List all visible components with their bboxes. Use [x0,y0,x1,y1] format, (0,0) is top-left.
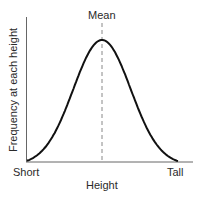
x-tick-tall: Tall [167,167,184,178]
x-axis-label: Height [86,180,118,191]
x-tick-short: Short [13,167,39,178]
y-axis-label: Frequency at each height [8,28,19,152]
bell-curve-chart: Mean Short Tall Height Frequency at each… [0,0,199,200]
mean-label: Mean [88,10,116,21]
